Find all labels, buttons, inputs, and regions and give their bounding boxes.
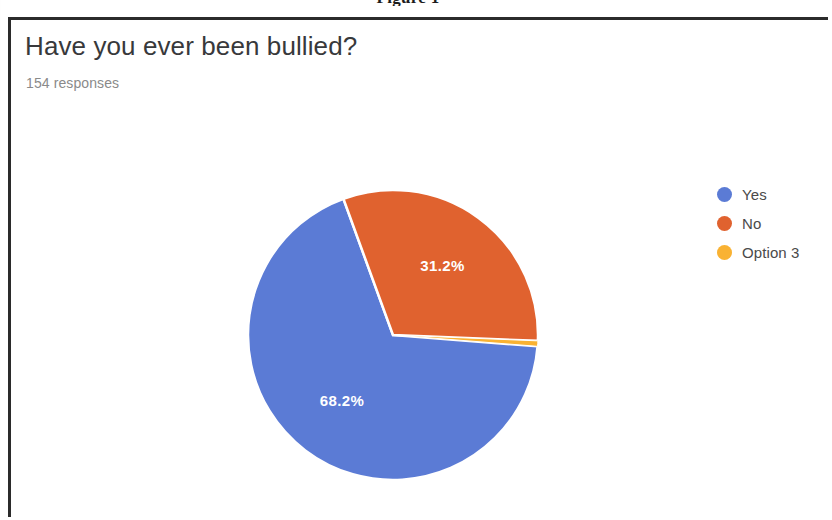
figure-caption: Figure 1 [0,0,816,6]
pie-label-yes: 68.2% [320,392,365,409]
pie-label-no: 31.2% [420,257,465,274]
chart-legend: YesNoOption 3 [717,180,832,267]
form-response-card: Have you ever been bullied? 154 response… [8,17,828,517]
pie-chart-area: 31.2% 68.2% YesNoOption 3 [11,20,831,520]
legend-item[interactable]: Option 3 [717,238,832,267]
legend-swatch-icon [717,187,732,202]
legend-item-label: Option 3 [742,244,800,261]
card-inner: Have you ever been bullied? 154 response… [11,20,828,517]
pie-chart-svg: 31.2% 68.2% [233,175,553,495]
legend-item[interactable]: Yes [717,180,832,209]
legend-swatch-icon [717,216,732,231]
legend-item[interactable]: No [717,209,832,238]
legend-item-label: Yes [742,186,767,203]
legend-swatch-icon [717,245,732,260]
legend-item-label: No [742,215,761,232]
